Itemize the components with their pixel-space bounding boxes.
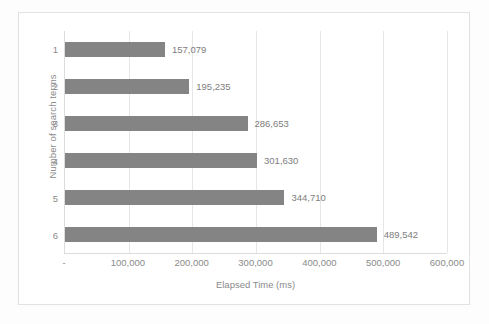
y-axis-tick-label: 3	[37, 105, 63, 142]
bar[interactable]	[65, 42, 165, 57]
bar-data-label: 301,630	[264, 155, 298, 166]
x-axis-tick-label: 200,000	[174, 257, 208, 268]
y-axis-tick-label: 6	[37, 217, 63, 254]
bar-row: 157,079	[65, 31, 447, 68]
bar[interactable]	[65, 153, 257, 168]
bar[interactable]	[65, 227, 377, 242]
bar-row: 286,653	[65, 105, 447, 142]
x-axis-tick-labels: -100,000200,000300,000400,000500,000600,…	[64, 257, 447, 273]
x-axis-tick-label: 100,000	[111, 257, 145, 268]
bar-row: 301,630	[65, 142, 447, 179]
bar-data-label: 157,079	[172, 44, 206, 55]
bar-data-label: 286,653	[255, 118, 289, 129]
x-axis-tick-label: -	[62, 257, 65, 268]
x-axis-tick-label: 400,000	[302, 257, 336, 268]
bar[interactable]	[65, 79, 189, 94]
x-axis-tick-label: 300,000	[238, 257, 272, 268]
bar-data-label: 344,710	[291, 192, 325, 203]
bar-data-label: 195,235	[196, 81, 230, 92]
bar-row: 344,710	[65, 179, 447, 216]
y-axis-tick-label: 1	[37, 31, 63, 68]
x-axis-tick-label: 500,000	[366, 257, 400, 268]
y-axis-tick-labels: 123456	[37, 31, 63, 254]
bar[interactable]	[65, 190, 284, 205]
y-axis-tick-label: 2	[37, 68, 63, 105]
x-axis-title: Elapsed Time (ms)	[64, 279, 447, 290]
y-axis-tick-label: 5	[37, 180, 63, 217]
x-axis-tick-label: 600,000	[430, 257, 464, 268]
y-axis-tick-label: 4	[37, 143, 63, 180]
chart-frame: Number of search terms 123456 157,079195…	[18, 12, 470, 305]
gridline	[447, 31, 448, 253]
bar-row: 195,235	[65, 68, 447, 105]
bar-data-label: 489,542	[384, 229, 418, 240]
bar[interactable]	[65, 116, 248, 131]
page-background: Number of search terms 123456 157,079195…	[0, 0, 489, 324]
plot-area: 157,079195,235286,653301,630344,710489,5…	[64, 31, 447, 254]
bar-row: 489,542	[65, 216, 447, 253]
bar-series: 157,079195,235286,653301,630344,710489,5…	[65, 31, 447, 253]
